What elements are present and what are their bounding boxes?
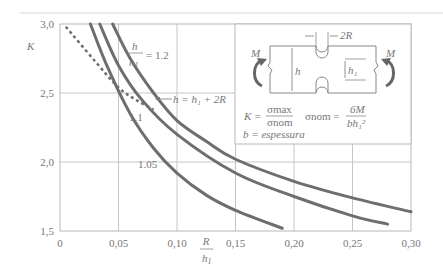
x-tick-label: 0 [57, 237, 63, 249]
inset-moment-left: M [250, 47, 261, 59]
inset-thickness-note: b = espessura [243, 128, 305, 140]
y-tick-label: 2,5 [40, 87, 54, 99]
stress-concentration-chart: 1,52,02,53,0 00,050,100,150,200,250,30 K… [0, 0, 443, 266]
inset-bh1-sq: bh₁² [347, 117, 366, 129]
y-tick-labels: 1,52,02,53,0 [40, 18, 54, 237]
inset-sigma-nom-def: σnom = [305, 110, 339, 122]
ratio-label-value: = 1.2 [146, 49, 169, 61]
inset-six-m: 6M [350, 103, 366, 115]
x-axis-label-num: R [202, 235, 210, 247]
inset-dim-2r: 2R [340, 29, 353, 41]
inset-moment-right: M [385, 47, 396, 59]
ratio-label-num: h [132, 40, 138, 52]
x-tick-label: 0,05 [109, 237, 129, 249]
x-tick-label: 0,10 [167, 237, 187, 249]
curve-label-1-1: 1.1 [129, 111, 143, 123]
curve-label-1-05: 1.05 [138, 158, 158, 170]
x-tick-labels: 00,050,100,150,200,250,30 [57, 237, 421, 249]
x-axis-label-den: h1 [202, 252, 212, 266]
x-tick-label: 0,15 [226, 237, 246, 249]
y-axis-label: K [26, 40, 35, 52]
ratio-label-den: h1 [129, 56, 139, 70]
x-tick-label: 0,20 [284, 237, 304, 249]
inset-sigma-nom: σnom [267, 116, 293, 128]
y-tick-label: 1,5 [40, 225, 54, 237]
inset-sigma-max: σmax [267, 103, 292, 115]
x-tick-label: 0,25 [343, 237, 363, 249]
inset-dim-h: h [295, 65, 301, 77]
dashed-curve-label: h = h₁ + 2R [173, 93, 226, 105]
inset-dim-h1: h₁ [348, 64, 358, 76]
y-tick-label: 3,0 [40, 18, 54, 30]
inset-formula-k: K = [243, 110, 262, 122]
y-tick-label: 2,0 [40, 156, 54, 168]
x-tick-label: 0,30 [401, 237, 421, 249]
inset-box [235, 24, 411, 144]
